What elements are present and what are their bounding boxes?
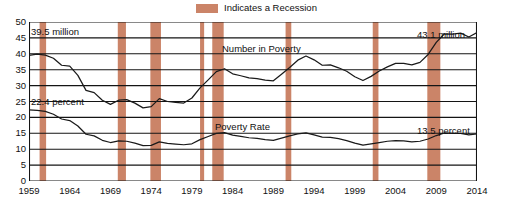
x-axis-tick-label: 1994 <box>304 186 325 196</box>
annotation-end-number: 43.1 million <box>417 30 465 40</box>
y-axis-tick-label: 45 <box>15 33 26 43</box>
y-axis-tick-label: 40 <box>15 49 26 59</box>
y-axis-tick-label: 50 <box>15 17 26 27</box>
annotation-start-number: 39.5 million <box>31 27 79 37</box>
x-axis-tick-label: 1959 <box>18 186 39 196</box>
x-axis-tick-label: 1964 <box>59 186 80 196</box>
y-axis-tick-label: 35 <box>15 65 26 75</box>
chart-legend: Indicates a Recession <box>196 2 317 14</box>
x-axis-tick-label: 1989 <box>263 186 284 196</box>
annotation-end-rate: 13.5 percent <box>417 126 470 136</box>
series-label-number-in-poverty: Number in Poverty <box>222 44 301 54</box>
y-axis-tick-label: 10 <box>15 144 26 154</box>
recession-swatch-icon <box>196 4 218 13</box>
x-axis-tick-label: 2004 <box>385 186 406 196</box>
y-axis-tick-label: 15 <box>15 128 26 138</box>
x-axis-tick-label: 1974 <box>141 186 162 196</box>
x-axis-tick-label: 2009 <box>426 186 447 196</box>
annotation-start-rate: 22.4 percent <box>31 97 84 107</box>
y-axis-tick-label: 20 <box>15 112 26 122</box>
x-axis-tick-label: 1969 <box>100 186 121 196</box>
x-axis-tick-label: 1999 <box>344 186 365 196</box>
y-axis-labels: 05101520253035404550 <box>0 22 26 181</box>
series-label-poverty-rate: Poverty Rate <box>215 122 270 132</box>
legend-label: Indicates a Recession <box>224 3 317 13</box>
x-axis-labels: 1959196419691974197919841989199419992004… <box>29 186 477 200</box>
poverty-chart: Indicates a Recession 051015202530354045… <box>0 0 507 204</box>
x-axis-tick-label: 1979 <box>181 186 202 196</box>
y-axis-tick-label: 25 <box>15 97 26 107</box>
y-axis-tick-label: 5 <box>21 160 26 170</box>
x-axis-tick-label: 2014 <box>466 186 487 196</box>
x-axis-tick-label: 1984 <box>222 186 243 196</box>
y-axis-tick-label: 30 <box>15 81 26 91</box>
